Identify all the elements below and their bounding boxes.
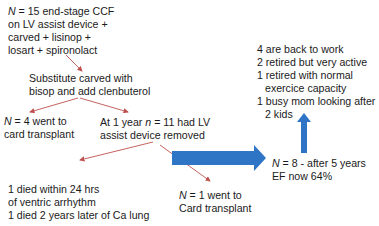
died-line-1: 1 died within 24 hrs [8, 183, 149, 196]
node-died: 1 died within 24 hrs of ventric arrhythm… [8, 183, 149, 222]
died-line-3: 1 died 2 years later of Ca lung [8, 209, 149, 222]
transplant-1-line-1: N = 1 went to [179, 189, 251, 202]
status-line-6: 2 kids [257, 108, 375, 121]
block-arrow-right [172, 145, 266, 171]
outcome-8-line-1-text: = 8 - after 5 years [280, 157, 366, 169]
status-line-2: 2 retired but very active [257, 56, 375, 69]
node-outcome-8: N = 8 - after 5 years EF now 64% [272, 157, 366, 183]
start-line-3: carved + lisinop + [8, 31, 114, 44]
removed-11-line-1: At 1 year n = 11 had LV [100, 116, 210, 129]
substitute-line-1: Substitute carved with [29, 72, 150, 85]
status-line-3: 1 retired with normal [257, 69, 375, 82]
died-line-2: of ventric arrhythm [8, 196, 149, 209]
node-transplant-1: N = 1 went to Card transplant [179, 189, 251, 215]
node-removed-11: At 1 year n = 11 had LV assist device re… [100, 116, 210, 142]
substitute-line-2: bisop and add clenbuterol [29, 85, 150, 98]
node-status: 4 are back to work 2 retired but very ac… [257, 43, 375, 121]
transplant-4-line-1: N = 4 went to [4, 115, 74, 128]
status-line-1: 4 are back to work [257, 43, 375, 56]
status-line-4: exercice capacity [257, 82, 375, 95]
arrow-removed-to-died [80, 142, 153, 160]
arrow-start-to-substitute [66, 55, 82, 71]
transplant-4-line-2: card transplant [4, 128, 74, 141]
start-line-4: losart + spironolact [8, 44, 114, 57]
start-line-1: N = 15 end-stage CCF [8, 5, 114, 18]
outcome-8-line-1: N = 8 - after 5 years [272, 157, 366, 170]
arrow-substitute-to-removed-11 [80, 98, 128, 112]
transplant-1-line-2: Card transplant [179, 202, 251, 215]
transplant-4-line-1-text: = 4 went to [12, 115, 67, 127]
removed-11-line-2: assist device removed [100, 129, 210, 142]
status-line-5: 1 busy mom looking after [257, 95, 375, 108]
arrow-substitute-to-transplant-4 [30, 98, 78, 112]
start-line-1-text: = 15 end-stage CCF [16, 5, 115, 17]
transplant-1-line-1-text: = 1 went to [187, 189, 242, 201]
node-substitute: Substitute carved with bisop and add cle… [29, 72, 150, 98]
node-transplant-4: N = 4 went to card transplant [4, 115, 74, 141]
outcome-8-line-2: EF now 64% [272, 170, 366, 183]
node-start: N = 15 end-stage CCF on LV assist device… [8, 5, 114, 57]
start-line-2: on LV assist device + [8, 18, 114, 31]
